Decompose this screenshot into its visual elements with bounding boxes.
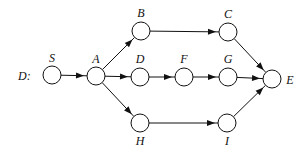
node-label-A: A — [91, 52, 100, 66]
node-S — [43, 66, 61, 84]
node-label-D: D — [135, 52, 145, 66]
node-label-B: B — [137, 6, 145, 20]
node-label-S: S — [49, 51, 55, 65]
node-label-E: E — [285, 73, 294, 87]
node-label-I: I — [224, 134, 230, 148]
graph-title: D: — [17, 69, 31, 83]
node-C — [219, 23, 237, 41]
node-I — [218, 114, 236, 132]
node-label-H: H — [135, 134, 146, 148]
node-E — [263, 70, 281, 88]
node-G — [219, 68, 237, 86]
graph-diagram: D: SABDHCFGIE — [0, 0, 307, 156]
arrowhead-icon — [208, 74, 216, 80]
arrowhead-icon — [207, 120, 215, 126]
arrowhead-icon — [252, 75, 260, 81]
node-B — [132, 22, 150, 40]
node-F — [175, 68, 193, 86]
arrowhead-icon — [76, 73, 84, 79]
node-D — [131, 68, 149, 86]
node-H — [131, 114, 149, 132]
arrowhead-icon — [164, 74, 172, 80]
node-label-F: F — [179, 52, 188, 66]
arrowhead-icon — [208, 29, 216, 35]
node-label-C: C — [224, 7, 233, 21]
node-A — [87, 67, 105, 85]
node-label-G: G — [224, 52, 233, 66]
arrowhead-icon — [120, 74, 128, 80]
